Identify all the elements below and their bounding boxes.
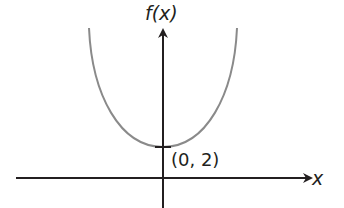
vertex-label: (0, 2) xyxy=(171,149,219,170)
x-axis-label: x xyxy=(311,167,324,189)
graph: f(x) x (0, 2) xyxy=(0,0,344,208)
y-axis-label: f(x) xyxy=(145,2,178,24)
